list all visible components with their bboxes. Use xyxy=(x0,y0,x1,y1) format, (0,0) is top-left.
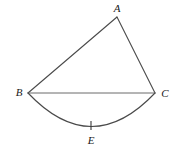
vertex-label-e: E xyxy=(88,135,95,146)
vertex-label-a: A xyxy=(114,3,121,14)
segment-ab xyxy=(28,17,117,93)
vertex-label-c: C xyxy=(161,88,168,99)
geometry-canvas xyxy=(0,0,179,154)
geometry-figure: A B C E xyxy=(0,0,179,154)
vertex-label-b: B xyxy=(16,87,23,98)
segment-ac xyxy=(117,17,155,93)
